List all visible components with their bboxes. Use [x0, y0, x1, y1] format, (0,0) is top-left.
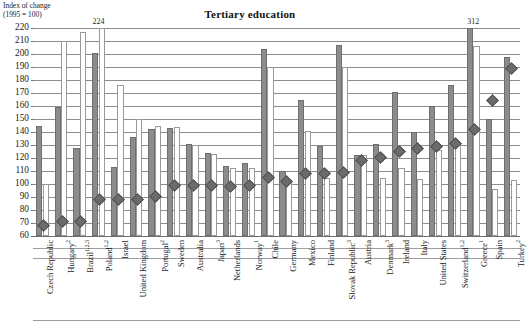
category-label-text: Mexico: [307, 240, 317, 266]
category-label-text: United States: [438, 240, 448, 286]
bar-light: [61, 41, 67, 236]
category-label-text: Chile: [270, 240, 280, 258]
x-axis-label-brazil: Brazil1,2,3: [83, 240, 94, 273]
bar-light: [398, 168, 404, 236]
bar-light: [324, 178, 330, 237]
bar-group: [167, 28, 180, 236]
bar-dark: [242, 163, 248, 236]
plot-area: 224312: [33, 28, 520, 236]
gridline-120: [33, 158, 520, 159]
bar-dark: [354, 155, 360, 236]
category-footnote: 1,2,3: [84, 240, 90, 252]
y-tick-label-190: 190: [15, 62, 29, 71]
y-tick-label-70: 70: [20, 218, 29, 227]
bar-group: [55, 28, 68, 236]
gridline-100: [33, 184, 520, 185]
bottom-rule-2: [33, 320, 520, 321]
x-axis-label-chile: Chile: [271, 240, 280, 258]
x-axis-label-portugal: Portugal2: [158, 240, 169, 272]
chart-title: Tertiary education: [0, 8, 532, 20]
y-tick-label-140: 140: [15, 127, 29, 136]
bar-light: [286, 181, 292, 236]
bar-dark: [130, 137, 136, 236]
bar-light: [155, 126, 161, 237]
gridline-80: [33, 210, 520, 211]
gridline-180: [33, 80, 520, 81]
bar-light: [305, 131, 311, 236]
bar-group: [261, 28, 274, 236]
bar-group: [448, 28, 461, 236]
category-label-text: Denmark: [385, 243, 395, 275]
category-label-text: Portugal: [160, 243, 170, 272]
category-label-text: Germany: [288, 240, 298, 272]
bar-light: [267, 67, 273, 236]
bar-dark: [36, 126, 42, 237]
gridline-200: [33, 54, 520, 55]
bar-light: [492, 189, 498, 236]
category-label-text: Poland: [104, 248, 114, 272]
gridline-90: [33, 197, 520, 198]
gridline-70: [33, 223, 520, 224]
y-axis-tick-labels: 2202102001901801701601501401301201101009…: [0, 28, 31, 236]
bar-group: [279, 28, 292, 236]
x-axis-label-austria: Austria: [364, 240, 373, 265]
y-tick-label-80: 80: [20, 205, 29, 214]
category-label-text: Italy: [419, 240, 429, 256]
category-label-text: Switzerland: [460, 248, 470, 289]
bar-light: [342, 67, 348, 236]
bar-light: [117, 85, 123, 236]
gridline-150: [33, 119, 520, 120]
bar-light: [80, 32, 86, 236]
bar-light: [380, 178, 386, 237]
bar-dark: [392, 92, 398, 236]
bar-dark: [429, 106, 435, 236]
gridline-140: [33, 132, 520, 133]
x-axis-label-germany: Germany: [289, 240, 298, 272]
bar-light: [473, 46, 479, 236]
y-tick-label-130: 130: [15, 140, 29, 149]
bar-dark: [486, 119, 492, 236]
category-label-text: Norway: [254, 243, 264, 270]
bar-group: [298, 28, 311, 236]
bar-group: [186, 28, 199, 236]
y-tick-label-220: 220: [15, 23, 29, 32]
category-label-text: Austria: [363, 240, 373, 265]
category-label-text: Brazil: [85, 252, 95, 273]
category-footnote: 3: [215, 240, 221, 243]
bar-dark: [504, 57, 510, 236]
gridline-130: [33, 145, 520, 146]
bar-group: [36, 28, 49, 236]
bar-light: [230, 168, 236, 236]
x-axis-label-greece: Greece1: [477, 240, 488, 267]
x-axis-label-australia: Australia: [196, 240, 205, 271]
chart-title-text: Tertiary education: [205, 8, 296, 20]
category-label-text: Japan: [216, 243, 226, 262]
bar-group: [73, 28, 86, 236]
category-footnote: 1: [253, 240, 259, 243]
bar-group: [486, 28, 499, 236]
bar-dark: [92, 53, 98, 236]
y-tick-label-150: 150: [15, 114, 29, 123]
bar-dark: [261, 49, 267, 236]
category-label-text: Australia: [195, 240, 205, 271]
x-axis-label-japan: Japan3: [214, 240, 225, 262]
bar-group: [354, 28, 367, 236]
category-footnote: 1: [478, 240, 484, 243]
x-axis-label-slovak-republic: Slovak Republic3: [345, 240, 356, 299]
x-axis-label-czech-republic: Czech Republic: [46, 240, 55, 294]
bar-light: [455, 144, 461, 236]
category-label-text: Greece: [478, 243, 488, 267]
category-footnote: 2: [515, 240, 521, 243]
category-label-text: Israel: [120, 240, 130, 259]
value-label-poland: 224: [93, 17, 105, 26]
x-axis-label-israel: Israel: [121, 240, 130, 259]
x-axis-label-hungary: Hungary2: [64, 240, 75, 273]
gridline-170: [33, 93, 520, 94]
category-label-text: Finland: [326, 240, 336, 266]
category-label-text: Sweden: [176, 240, 186, 267]
gridline-220: [33, 28, 520, 29]
x-axis-label-united-kingdom: United Kingdom: [139, 240, 148, 297]
chart-root: Index of change(1995 = 100) Tertiary edu…: [0, 0, 532, 327]
x-axis-label-turkey: Turkey2: [514, 240, 525, 267]
category-label-text: Turkey: [516, 243, 526, 267]
